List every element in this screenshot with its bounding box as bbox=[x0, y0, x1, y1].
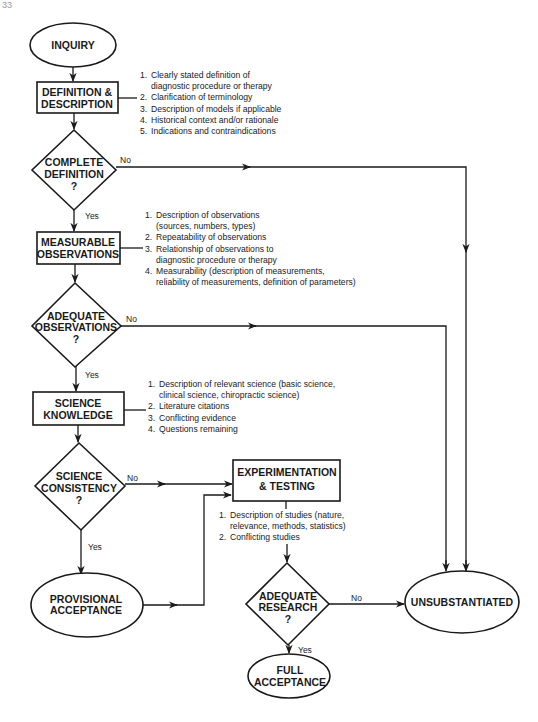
note-num: 4. bbox=[140, 115, 151, 126]
note-item: 1.Description of observations(sources, n… bbox=[145, 210, 356, 232]
note-cont: diagnostic procedure or therapy bbox=[140, 81, 281, 92]
decision-research-line3: ? bbox=[285, 613, 291, 625]
decision-consistency-line2: CONSISTENCY bbox=[41, 482, 117, 494]
label-complete-no: No bbox=[120, 155, 131, 165]
node-measurable: MEASURABLE OBSERVATIONS bbox=[37, 232, 120, 264]
note-item: 1.Description of studies (nature,relevan… bbox=[219, 510, 346, 532]
node-unsubstantiated: UNSUBSTANTIATED bbox=[405, 571, 519, 633]
note-item: 2.Clarification of terminology bbox=[140, 92, 281, 103]
node-science-knowledge: SCIENCE KNOWLEDGE bbox=[33, 392, 124, 425]
node-science-line2: KNOWLEDGE bbox=[43, 409, 112, 421]
node-full-line1: FULL bbox=[277, 664, 304, 676]
label-consistency-no: No bbox=[127, 473, 138, 483]
label-research-yes: Yes bbox=[298, 645, 312, 655]
node-inquiry: INQUIRY bbox=[30, 23, 116, 67]
node-definition-line1: DEFINITION & bbox=[42, 86, 112, 98]
note-num: 2. bbox=[219, 532, 230, 543]
note-text: Repeatability of observations bbox=[156, 232, 266, 242]
notes-science: 1.Description of relevant science (basic… bbox=[148, 379, 335, 435]
node-inquiry-label: INQUIRY bbox=[51, 39, 94, 51]
decision-complete-line2: DEFINITION bbox=[44, 168, 104, 180]
note-num: 1. bbox=[140, 70, 151, 81]
note-item: 5.Indications and contraindications bbox=[140, 126, 281, 137]
node-measurable-line1: MEASURABLE bbox=[41, 236, 115, 248]
note-item: 1.Description of relevant science (basic… bbox=[148, 379, 335, 401]
note-text: Clearly stated definition of bbox=[151, 70, 250, 80]
note-num: 5. bbox=[140, 126, 151, 137]
decision-adequate-research: ADEQUATE RESEARCH ? No Yes bbox=[246, 563, 362, 655]
node-provisional-acceptance: PROVISIONAL ACCEPTANCE bbox=[31, 573, 143, 637]
note-num: 3. bbox=[140, 104, 151, 115]
note-text: Relationship of observations to bbox=[156, 244, 274, 254]
note-num: 4. bbox=[148, 424, 159, 435]
note-num: 3. bbox=[145, 244, 156, 255]
decision-complete-line3: ? bbox=[71, 180, 77, 192]
notes-experimentation: 1.Description of studies (nature,relevan… bbox=[219, 510, 346, 544]
note-item: 3.Description of models if applicable bbox=[140, 104, 281, 115]
label-research-no: No bbox=[351, 593, 362, 603]
decision-complete-line1: COMPLETE bbox=[45, 156, 103, 168]
note-item: 4.Historical context and/or rationale bbox=[140, 115, 281, 126]
note-item: 3.Relationship of observations todiagnos… bbox=[145, 244, 356, 266]
note-num: 1. bbox=[145, 210, 156, 221]
node-full-line2: ACCEPTANCE bbox=[254, 676, 326, 688]
note-item: 2.Conflicting studies bbox=[219, 532, 346, 543]
note-cont: relevance, methods, statistics) bbox=[219, 521, 346, 532]
note-cont: clinical science, chiropractic science) bbox=[148, 390, 335, 401]
note-cont: (sources, numbers, types) bbox=[145, 221, 356, 232]
node-experimentation-line2: & TESTING bbox=[259, 480, 315, 492]
decision-research-line2: RESEARCH bbox=[259, 601, 318, 613]
node-definition: DEFINITION & DESCRIPTION bbox=[37, 82, 118, 113]
decision-adequate-observations: ADEQUATE OBSERVATIONS ? No Yes bbox=[32, 283, 137, 380]
note-text: Description of models if applicable bbox=[151, 104, 281, 114]
node-provisional-line2: ACCEPTANCE bbox=[50, 604, 122, 616]
note-num: 4. bbox=[145, 266, 156, 277]
note-text: Clarification of terminology bbox=[151, 92, 252, 102]
note-item: 4.Measurability (description of measurem… bbox=[145, 266, 356, 288]
note-item: 2.Literature citations bbox=[148, 401, 335, 412]
note-num: 1. bbox=[148, 379, 159, 390]
note-num: 1. bbox=[219, 510, 230, 521]
note-num: 2. bbox=[148, 401, 159, 412]
note-num: 3. bbox=[148, 413, 159, 424]
edges bbox=[73, 67, 466, 653]
note-text: Literature citations bbox=[159, 401, 229, 411]
note-cont: diagnostic procedure or therapy bbox=[145, 255, 356, 266]
label-complete-yes: Yes bbox=[85, 211, 99, 221]
note-text: Conflicting evidence bbox=[159, 413, 236, 423]
decision-adequate-obs-line3: ? bbox=[73, 333, 79, 345]
note-num: 2. bbox=[140, 92, 151, 103]
note-item: 3.Conflicting evidence bbox=[148, 413, 335, 424]
note-cont: reliability of measurements, definition … bbox=[145, 277, 356, 288]
decision-adequate-obs-line2: OBSERVATIONS bbox=[35, 321, 117, 333]
label-adequate-obs-yes: Yes bbox=[85, 370, 99, 380]
notes-definition: 1.Clearly stated definition ofdiagnostic… bbox=[140, 70, 281, 137]
node-measurable-line2: OBSERVATIONS bbox=[37, 248, 119, 260]
node-full-acceptance: FULL ACCEPTANCE bbox=[248, 654, 330, 698]
node-unsubstantiated-label: UNSUBSTANTIATED bbox=[411, 596, 514, 608]
label-adequate-obs-no: No bbox=[126, 314, 137, 324]
note-text: Conflicting studies bbox=[230, 532, 300, 542]
note-text: Measurability (description of measuremen… bbox=[156, 266, 325, 276]
node-experimentation-line1: EXPERIMENTATION bbox=[237, 466, 336, 478]
decision-consistency-line1: SCIENCE bbox=[56, 470, 103, 482]
label-consistency-yes: Yes bbox=[88, 542, 102, 552]
node-science-line1: SCIENCE bbox=[55, 397, 102, 409]
note-text: Historical context and/or rationale bbox=[151, 115, 279, 125]
note-text: Description of studies (nature, bbox=[230, 510, 344, 520]
note-text: Indications and contraindications bbox=[151, 126, 276, 136]
node-experimentation: EXPERIMENTATION & TESTING bbox=[233, 460, 340, 501]
note-num: 2. bbox=[145, 232, 156, 243]
decision-science-consistency: SCIENCE CONSISTENCY ? No Yes bbox=[35, 443, 138, 552]
decision-complete-definition: COMPLETE DEFINITION ? No Yes bbox=[32, 130, 131, 221]
note-text: Description of relevant science (basic s… bbox=[159, 379, 335, 389]
note-text: Questions remaining bbox=[159, 424, 238, 434]
note-item: 4.Questions remaining bbox=[148, 424, 335, 435]
note-text: Description of observations bbox=[156, 210, 260, 220]
node-definition-line2: DESCRIPTION bbox=[41, 98, 113, 110]
note-item: 1.Clearly stated definition ofdiagnostic… bbox=[140, 70, 281, 92]
note-item: 2.Repeatability of observations bbox=[145, 232, 356, 243]
notes-measurable: 1.Description of observations(sources, n… bbox=[145, 210, 356, 288]
decision-consistency-line3: ? bbox=[76, 494, 82, 506]
